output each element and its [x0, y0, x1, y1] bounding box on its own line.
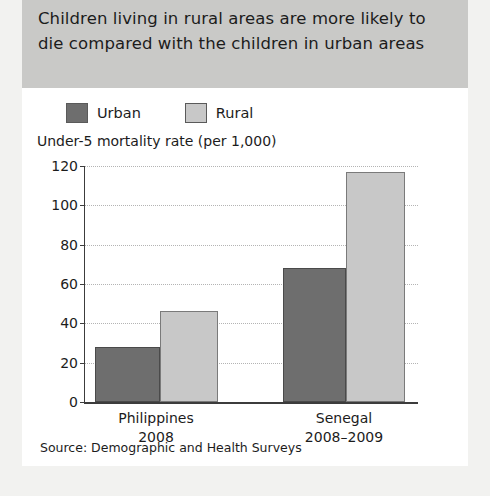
- tick-mark-40: [80, 323, 84, 324]
- page-bottom-margin: [22, 466, 468, 496]
- y-tick-label-120: 120: [22, 158, 78, 174]
- bar-philippines-urban[interactable]: [95, 347, 160, 402]
- legend-label-rural: Rural: [216, 105, 254, 121]
- legend-item-rural: Rural: [185, 103, 254, 123]
- chart-legend: Urban Rural: [66, 103, 253, 123]
- legend-label-urban: Urban: [97, 105, 141, 121]
- x-category-name-senegal: Senegal: [305, 409, 383, 428]
- y-tick-label-20: 20: [22, 355, 78, 371]
- y-tick-label-40: 40: [22, 315, 78, 331]
- tick-mark-20: [80, 363, 84, 364]
- x-category-name-philippines: Philippines: [118, 409, 193, 428]
- legend-item-urban: Urban: [66, 103, 141, 123]
- chart-page: Children living in rural areas are more …: [0, 0, 490, 496]
- tick-mark-0: [80, 402, 84, 403]
- tick-mark-80: [80, 245, 84, 246]
- plot-area: 120 100 80 60 40 20 0 Philippines 2008 S…: [84, 166, 418, 402]
- legend-swatch-rural-icon: [185, 103, 207, 123]
- x-category-year-senegal: 2008–2009: [305, 428, 383, 447]
- tick-mark-100: [80, 205, 84, 206]
- tick-mark-120: [80, 166, 84, 167]
- x-category-label-senegal: Senegal 2008–2009: [305, 409, 383, 447]
- bar-philippines-rural[interactable]: [160, 311, 218, 402]
- y-tick-label-80: 80: [22, 237, 78, 253]
- y-tick-label-100: 100: [22, 197, 78, 213]
- y-axis-title: Under-5 mortality rate (per 1,000): [37, 133, 277, 149]
- bar-senegal-urban[interactable]: [283, 268, 346, 402]
- y-tick-label-60: 60: [22, 276, 78, 292]
- tick-mark-60: [80, 284, 84, 285]
- x-axis-line: [84, 402, 418, 404]
- title-banner: Children living in rural areas are more …: [22, 0, 468, 88]
- chart-title: Children living in rural areas are more …: [38, 6, 454, 56]
- legend-swatch-urban-icon: [66, 103, 88, 123]
- bar-senegal-rural[interactable]: [346, 172, 405, 402]
- page-right-margin: [468, 0, 490, 496]
- chart-card: Urban Rural Under-5 mortality rate (per …: [22, 88, 468, 466]
- y-tick-label-0: 0: [22, 394, 78, 410]
- gridline-120: [85, 166, 418, 168]
- page-left-margin: [0, 0, 22, 496]
- source-note: Source: Demographic and Health Surveys: [40, 440, 302, 455]
